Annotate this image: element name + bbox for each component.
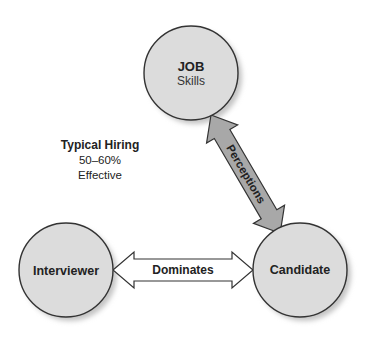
- typical-hiring-note: Typical Hiring 50–60% Effective: [61, 138, 139, 183]
- note-line-1: 50–60%: [61, 153, 139, 168]
- dominates-label: Dominates: [152, 263, 213, 277]
- job-node: JOB Skills: [177, 59, 205, 88]
- diagram-canvas: [0, 0, 367, 337]
- note-line-2: Effective: [61, 168, 139, 183]
- job-title: JOB: [177, 59, 205, 74]
- note-title: Typical Hiring: [61, 138, 139, 153]
- job-subtitle: Skills: [177, 74, 205, 88]
- candidate-label: Candidate: [270, 263, 330, 277]
- interviewer-label: Interviewer: [33, 264, 99, 278]
